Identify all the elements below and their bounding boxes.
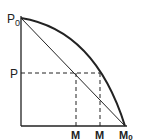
label-m2: M [95, 129, 104, 140]
label-m1: M [71, 129, 80, 140]
ppc-diagram: P0 P M M M0 [0, 0, 147, 140]
label-p0: P0 [7, 12, 20, 28]
label-p: P [10, 67, 18, 81]
linear-frontier [21, 18, 125, 126]
label-m0: M0 [119, 129, 133, 140]
